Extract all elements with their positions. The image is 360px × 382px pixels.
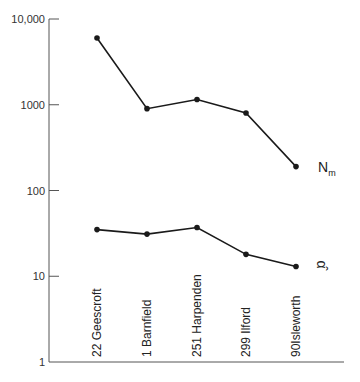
data-point [144, 231, 150, 237]
data-point [293, 264, 299, 270]
series-group: Nmα̂ [94, 35, 335, 271]
y-tick-label: 1000 [21, 99, 45, 111]
data-point [94, 35, 100, 41]
data-point [243, 110, 249, 116]
category-label: 22 Geescroft [90, 288, 104, 357]
data-point [293, 164, 299, 170]
category-label: 299 Ilford [239, 307, 253, 357]
series-label: Nm [318, 159, 336, 178]
series-line [97, 38, 296, 167]
y-tick-label: 10,000 [11, 13, 45, 25]
y-tick-label: 1 [39, 356, 45, 368]
series-line [97, 228, 296, 267]
line-chart: 10,0001000100101 Nmα̂ 22 Geescroft1 Barn… [0, 0, 360, 382]
category-label: 251 Harpenden [190, 274, 204, 357]
data-point [144, 106, 150, 112]
category-label: 90Isleworth [289, 296, 303, 357]
data-point [243, 252, 249, 258]
y-tick-label: 100 [27, 185, 45, 197]
data-point [194, 225, 200, 231]
series-label: α̂ [314, 260, 330, 271]
category-labels: 22 Geescroft1 Barnfield251 Harpenden299 … [90, 274, 303, 357]
y-tick-label: 10 [33, 270, 45, 282]
category-label: 1 Barnfield [140, 300, 154, 357]
data-point [194, 97, 200, 103]
data-point [94, 227, 100, 233]
